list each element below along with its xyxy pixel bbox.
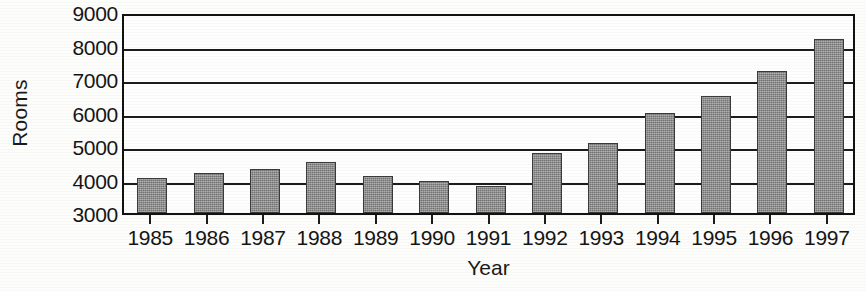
x-axis-tick-label: 1987 bbox=[235, 226, 291, 250]
x-axis-tick-label: 1990 bbox=[404, 226, 460, 250]
x-axis-tick bbox=[713, 215, 715, 224]
bar-1988 bbox=[306, 162, 336, 213]
y-axis-tick-label: 4000 bbox=[36, 171, 118, 192]
x-axis-tick-label: 1997 bbox=[799, 226, 855, 250]
x-axis-tick bbox=[657, 215, 659, 224]
x-axis-tick bbox=[544, 215, 546, 224]
bar-1991 bbox=[476, 186, 506, 213]
y-axis-title-label: Rooms bbox=[8, 79, 32, 147]
x-axis-tick-label: 1989 bbox=[348, 226, 404, 250]
y-axis-tick-label: 9000 bbox=[36, 3, 118, 24]
bar-1987 bbox=[250, 169, 280, 213]
x-axis-tick-label: 1993 bbox=[573, 226, 629, 250]
x-axis-tick-label: 1985 bbox=[122, 226, 178, 250]
x-axis-tick bbox=[375, 215, 377, 224]
bar-1985 bbox=[137, 178, 167, 213]
y-axis-tick-label: 7000 bbox=[36, 70, 118, 91]
x-axis-ticks bbox=[122, 215, 855, 224]
x-axis-tick-label: 1996 bbox=[742, 226, 798, 250]
x-axis-tick bbox=[206, 215, 208, 224]
x-axis-title: Year bbox=[122, 256, 855, 280]
bar-1995 bbox=[701, 96, 731, 213]
bar-1993 bbox=[588, 143, 618, 213]
y-axis-tick-label: 3000 bbox=[36, 204, 118, 225]
y-axis-tick-label: 6000 bbox=[36, 104, 118, 125]
bar-1990 bbox=[419, 181, 449, 213]
y-axis-tick-labels: 3000400050006000700080009000 bbox=[36, 0, 118, 230]
x-axis-tick bbox=[262, 215, 264, 224]
x-axis-tick-label: 1992 bbox=[517, 226, 573, 250]
x-axis-tick-labels: 1985198619871988198919901991199219931994… bbox=[122, 226, 855, 254]
x-axis-tick bbox=[826, 215, 828, 224]
x-axis-tick-label: 1991 bbox=[460, 226, 516, 250]
bar-1989 bbox=[363, 176, 393, 213]
x-axis-tick bbox=[318, 215, 320, 224]
x-axis-tick bbox=[769, 215, 771, 224]
bar-1986 bbox=[194, 173, 224, 213]
y-axis-title: Rooms bbox=[0, 0, 40, 225]
plot-area bbox=[122, 14, 855, 215]
bar-1994 bbox=[645, 113, 675, 214]
bars-layer bbox=[124, 16, 853, 213]
x-axis-tick bbox=[149, 215, 151, 224]
bar-chart-figure: Rooms 3000400050006000700080009000 19851… bbox=[0, 0, 866, 291]
bar-1996 bbox=[757, 71, 787, 213]
bar-1997 bbox=[814, 39, 844, 213]
x-axis-tick-label: 1995 bbox=[686, 226, 742, 250]
bar-1992 bbox=[532, 153, 562, 213]
x-axis-tick-label: 1986 bbox=[178, 226, 234, 250]
y-axis-tick-label: 5000 bbox=[36, 137, 118, 158]
x-axis-tick bbox=[488, 215, 490, 224]
y-axis-tick-label: 8000 bbox=[36, 37, 118, 58]
x-axis-tick-label: 1988 bbox=[291, 226, 347, 250]
x-axis-tick-label: 1994 bbox=[629, 226, 685, 250]
x-axis-tick bbox=[600, 215, 602, 224]
x-axis-tick bbox=[431, 215, 433, 224]
